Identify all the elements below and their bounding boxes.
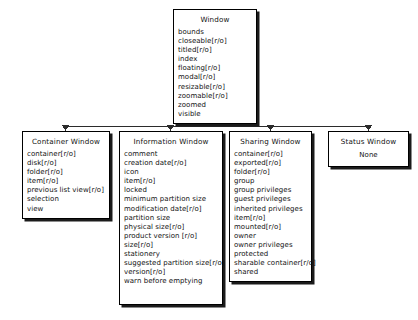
attribute-row: product version [r/o] [124,232,222,241]
class-box-window[interactable]: Window bounds closeable[r/o] titled[r/o]… [173,9,257,124]
attribute-row: guest privileges [234,195,311,204]
attribute-row: group [234,177,311,186]
attribute-row: protected [234,250,311,259]
attribute-row: comment [124,150,222,159]
attribute-row: creation date[r/o] [124,159,222,168]
attribute-row: partition size [124,214,222,223]
attribute-row: container[r/o] [234,150,311,159]
attribute-row: inherited privileges [234,205,311,214]
attribute-row: stationery [124,250,222,259]
attribute-row: physical size[r/o] [124,223,222,232]
class-title-status-window: Status Window [329,132,408,148]
attribute-row: titled[r/o] [178,46,256,55]
attribute-row: owner privileges [234,241,311,250]
attribute-row: exported[r/o] [234,159,311,168]
class-attributes-sharing-window: container[r/o] exported[r/o] folder[r/o]… [230,148,311,281]
attribute-row: suggested partition size[r/o] [124,259,222,268]
class-attributes-status-window: None [329,148,408,166]
attribute-row: bounds [178,28,256,37]
attribute-row: version[r/o] [124,268,222,277]
class-box-information-window[interactable]: Information Window comment creation date… [119,131,223,305]
attribute-row: modification date[r/o] [124,205,222,214]
attribute-row: disk[r/o] [27,159,109,168]
attribute-row: selection [27,195,109,204]
attribute-row: view [27,205,109,214]
attribute-row: minimum partition size [124,195,222,204]
attribute-row: sharable container[r/o] [234,259,311,268]
attribute-row: zoomable[r/o] [178,92,256,101]
class-attributes-window: bounds closeable[r/o] titled[r/o] index … [174,26,256,123]
attribute-row: item[r/o] [124,177,222,186]
attribute-row: resizable[r/o] [178,83,256,92]
attribute-row: owner [234,232,311,241]
attribute-row: mounted[r/o] [234,223,311,232]
attribute-row: locked [124,186,222,195]
attribute-row: folder[r/o] [234,168,311,177]
class-box-container-window[interactable]: Container Window container[r/o] disk[r/o… [22,131,110,219]
class-title-sharing-window: Sharing Window [230,132,311,148]
class-attributes-information-window: comment creation date[r/o] icon item[r/o… [120,148,222,290]
class-box-sharing-window[interactable]: Sharing Window container[r/o] exported[r… [229,131,312,282]
attribute-row: item[r/o] [27,177,109,186]
attribute-row: container[r/o] [27,150,109,159]
attribute-row: visible [178,110,256,119]
class-title-information-window: Information Window [120,132,222,148]
attribute-row: floating[r/o] [178,64,256,73]
class-box-status-window[interactable]: Status Window None [328,131,409,167]
attribute-row: warn before emptying [124,277,222,286]
attribute-row: icon [124,168,222,177]
attribute-row: None [329,151,408,160]
attribute-row: previous list view[r/o] [27,186,109,195]
attribute-row: modal[r/o] [178,73,256,82]
class-title-window: Window [174,10,256,26]
attribute-row: group privileges [234,186,311,195]
attribute-row: zoomed [178,101,256,110]
class-title-container-window: Container Window [23,132,109,148]
attribute-row: item[r/o] [234,214,311,223]
attribute-row: size[r/o] [124,241,222,250]
attribute-row: folder[r/o] [27,168,109,177]
attribute-row: closeable[r/o] [178,37,256,46]
attribute-row: index [178,55,256,64]
attribute-row: shared [234,268,311,277]
class-hierarchy-diagram: Window bounds closeable[r/o] titled[r/o]… [0,0,418,320]
class-attributes-container-window: container[r/o] disk[r/o] folder[r/o] ite… [23,148,109,218]
